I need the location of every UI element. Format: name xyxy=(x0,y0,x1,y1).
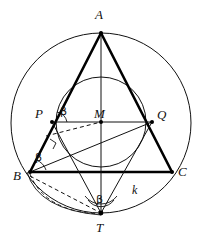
vertex-dot-t xyxy=(99,211,104,216)
geometry-figure: A B C P Q M T k β β β xyxy=(0,0,201,242)
label-point-q: Q xyxy=(157,108,166,121)
label-vertex-c: C xyxy=(178,165,187,178)
label-center-m: M xyxy=(94,107,105,120)
vertex-dot-c xyxy=(170,170,174,174)
segment-bq xyxy=(30,122,152,172)
segment-pt xyxy=(52,122,101,213)
label-angle-beta-at-p: β xyxy=(60,106,67,117)
label-vertex-b: B xyxy=(13,169,21,182)
segment-qt xyxy=(101,122,152,213)
right-angle-mark-below-p xyxy=(50,139,56,149)
side-ac xyxy=(101,33,172,172)
label-angle-beta-at-b: β xyxy=(35,152,42,163)
vertex-dot-a xyxy=(99,31,103,35)
vertex-dot-q xyxy=(150,120,154,124)
label-circle-k: k xyxy=(132,184,137,196)
label-point-p: P xyxy=(35,107,43,120)
vertex-dot-p xyxy=(50,120,54,124)
vertex-dot-b xyxy=(28,170,32,174)
label-point-t: T xyxy=(96,221,103,234)
label-vertex-a: A xyxy=(95,8,103,21)
label-angle-beta-at-t: β xyxy=(96,194,103,205)
